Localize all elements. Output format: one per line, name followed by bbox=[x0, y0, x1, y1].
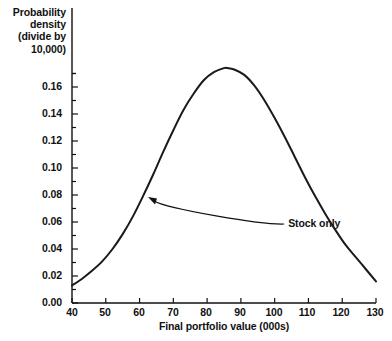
axes-spines bbox=[72, 8, 376, 303]
plot-area bbox=[0, 0, 392, 341]
chart-figure: Probability density (divide by 10,000) 0… bbox=[0, 0, 392, 341]
axis-ticks bbox=[72, 74, 376, 304]
data-line-stock-only bbox=[72, 68, 376, 286]
annotation-arrow-line bbox=[154, 201, 284, 224]
annotation-arrow-head-icon bbox=[148, 197, 157, 205]
annotation-arrow-stock-only bbox=[148, 197, 284, 224]
